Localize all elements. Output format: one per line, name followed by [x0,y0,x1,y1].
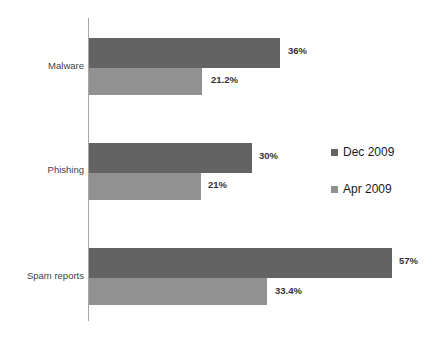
bar-phishing-dec-2009[interactable] [89,143,252,173]
bar-spam-reports-apr-2009[interactable] [89,278,267,305]
category-label-spam-reports: Spam reports [27,270,84,281]
category-label-malware: Malware [48,60,84,71]
value-label-spam-reports-dec-2009: 57% [399,255,418,266]
value-label-phishing-dec-2009: 30% [259,150,278,161]
bar-phishing-apr-2009[interactable] [89,173,201,200]
legend-label-apr-2009: Apr 2009 [343,183,392,196]
square-swatch-icon [331,186,338,193]
value-label-malware-apr-2009: 21.2% [211,74,238,85]
plot-area: Malware 36% 21.2% Phishing 30% 21% Spam … [0,0,435,337]
value-label-malware-dec-2009: 36% [288,45,307,56]
value-label-spam-reports-apr-2009: 33.4% [275,285,302,296]
square-swatch-icon [331,149,338,156]
bar-spam-reports-dec-2009[interactable] [89,248,392,278]
bar-chart: Malware 36% 21.2% Phishing 30% 21% Spam … [0,0,435,337]
bar-malware-dec-2009[interactable] [89,38,280,68]
value-label-phishing-apr-2009: 21% [208,179,227,190]
bar-malware-apr-2009[interactable] [89,68,202,95]
category-label-phishing: Phishing [48,164,84,175]
legend-label-dec-2009: Dec 2009 [343,146,394,159]
legend-item-dec-2009[interactable]: Dec 2009 [331,146,394,159]
legend-item-apr-2009[interactable]: Apr 2009 [331,183,392,196]
